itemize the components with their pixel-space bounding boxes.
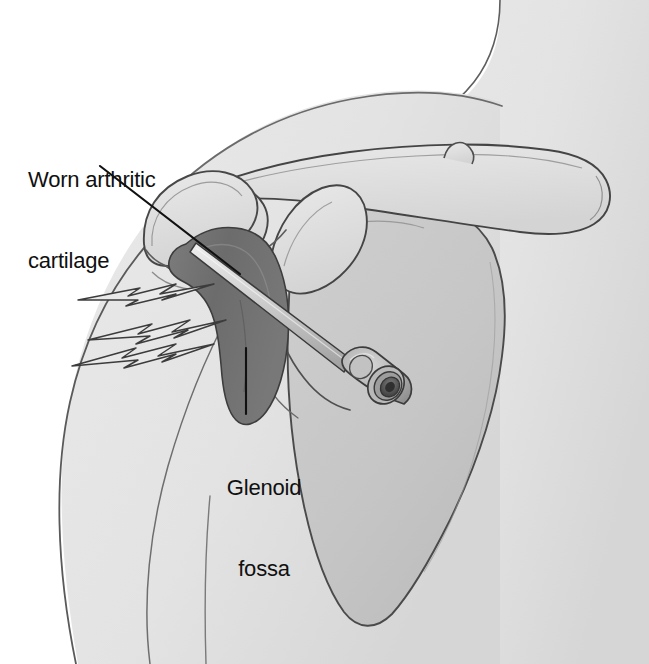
label-glenoid-line-2: fossa xyxy=(204,555,324,582)
label-glenoid-line-1: Glenoid xyxy=(204,474,324,501)
label-worn-arthritic-cartilage: Worn arthritic cartilage xyxy=(28,112,156,328)
label-glenoid-fossa: Glenoid fossa xyxy=(204,420,324,636)
shoulder-anatomy-diagram xyxy=(0,0,649,664)
label-worn-line-1: Worn arthritic xyxy=(28,166,156,193)
label-worn-line-2: cartilage xyxy=(28,247,156,274)
illustration-canvas: Worn arthritic cartilage Glenoid fossa xyxy=(0,0,649,664)
